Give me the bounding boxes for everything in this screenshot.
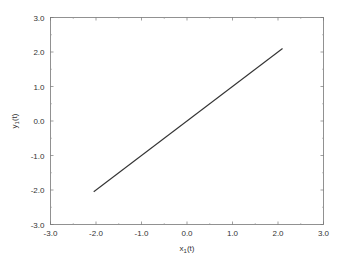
series-line bbox=[94, 49, 283, 192]
y-tick-label: 3.0 bbox=[33, 14, 45, 23]
y-tick-label: 0.0 bbox=[33, 117, 45, 126]
y-tick-label: -1.0 bbox=[31, 152, 45, 161]
y-tick-label: 2.0 bbox=[33, 48, 45, 57]
y-tick-label: 1.0 bbox=[33, 83, 45, 92]
x-tick-label: 2.0 bbox=[272, 229, 284, 238]
y-axis-ticks: -3.0-2.0-1.00.01.02.03.0 bbox=[31, 14, 324, 230]
y-tick-label: -3.0 bbox=[31, 221, 45, 230]
x-tick-label: 1.0 bbox=[227, 229, 239, 238]
y-axis-label: y1(t) bbox=[10, 113, 20, 128]
x-axis-label: x1(t) bbox=[180, 244, 195, 254]
phase-plot: -3.0-2.0-1.00.01.02.03.0 -3.0-2.0-1.00.0… bbox=[0, 0, 344, 268]
x-tick-label: -3.0 bbox=[44, 229, 58, 238]
data-series bbox=[94, 49, 283, 192]
x-tick-label: -1.0 bbox=[135, 229, 149, 238]
x-axis-ticks: -3.0-2.0-1.00.01.02.03.0 bbox=[44, 18, 330, 238]
x-tick-label: -2.0 bbox=[89, 229, 103, 238]
y-tick-label: -2.0 bbox=[31, 186, 45, 195]
x-tick-label: 0.0 bbox=[181, 229, 193, 238]
x-tick-label: 3.0 bbox=[318, 229, 330, 238]
